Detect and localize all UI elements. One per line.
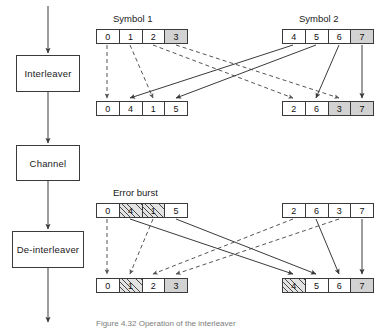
block-interleaver-label: Interleaver: [24, 68, 71, 79]
figure-caption: Figure 4.32 Operation of the interleaver: [96, 319, 236, 328]
cell: 2: [143, 279, 166, 292]
figure-canvas: Interleaver Channel De-interleaver Symbo…: [0, 0, 390, 328]
cell: 6: [329, 279, 352, 292]
label-symbol-1: Symbol 1: [113, 13, 153, 24]
block-de-interleaver-label: De-interleaver: [17, 244, 79, 255]
cell: 6: [329, 30, 352, 43]
interleave-map-dashed: [107, 45, 339, 98]
cell: 5: [306, 30, 329, 43]
cell: 2: [283, 102, 306, 115]
cell: 5: [306, 279, 329, 292]
register-symbol-2-input: 4 5 6 7: [282, 29, 374, 44]
cell: 1: [143, 102, 166, 115]
cell: 2: [283, 204, 306, 217]
cell: 0: [97, 279, 120, 292]
cell: 5: [165, 204, 187, 217]
cell: 3: [329, 102, 352, 115]
cell: 1: [120, 30, 143, 43]
cell: 7: [351, 204, 373, 217]
register-symbol-1-output: 0 1 2 3: [96, 278, 188, 293]
cell: 4: [120, 102, 143, 115]
deinterleave-map-solid: [130, 219, 362, 274]
cell: 3: [165, 279, 187, 292]
cell: 2: [143, 30, 166, 43]
interleave-map-solid: [130, 45, 362, 98]
register-channel-output-block-2: 2 6 3 7: [282, 203, 374, 218]
cell: 1: [143, 204, 166, 217]
cell: 7: [351, 279, 373, 292]
label-error-burst: Error burst: [113, 187, 158, 198]
cell: 0: [97, 30, 120, 43]
cell: 6: [306, 102, 329, 115]
deinterleave-map-dashed: [107, 219, 339, 274]
register-channel-output-block-1: 0 4 1 5: [96, 203, 188, 218]
cell: 3: [329, 204, 352, 217]
cell: 7: [351, 102, 373, 115]
cell: 3: [165, 30, 187, 43]
cell: 5: [165, 102, 187, 115]
register-interleaved-block-1: 0 4 1 5: [96, 101, 188, 116]
label-symbol-2: Symbol 2: [299, 13, 339, 24]
block-channel-label: Channel: [30, 158, 67, 169]
cell: 4: [283, 279, 306, 292]
block-de-interleaver[interactable]: De-interleaver: [12, 231, 84, 268]
register-interleaved-block-2: 2 6 3 7: [282, 101, 374, 116]
cell: 1: [120, 279, 143, 292]
cell: 4: [283, 30, 306, 43]
cell: 6: [306, 204, 329, 217]
cell: 0: [97, 204, 120, 217]
cell: 0: [97, 102, 120, 115]
register-symbol-2-output: 4 5 6 7: [282, 278, 374, 293]
block-channel[interactable]: Channel: [16, 145, 80, 181]
cell: 4: [120, 204, 143, 217]
block-interleaver[interactable]: Interleaver: [16, 55, 80, 92]
cell: 7: [351, 30, 373, 43]
register-symbol-1-input: 0 1 2 3: [96, 29, 188, 44]
